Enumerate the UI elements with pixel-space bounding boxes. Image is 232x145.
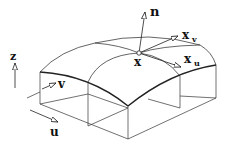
label-xu: x <box>184 52 192 66</box>
u-axis-arrow <box>30 110 58 122</box>
tangent-v-vector <box>139 36 178 53</box>
label-xv-sub: v <box>191 34 197 44</box>
label-n: n <box>150 4 160 19</box>
label-xv: x <box>182 28 190 42</box>
label-v: v <box>57 77 66 91</box>
tangent-u-vector <box>139 53 181 67</box>
surface-curves <box>40 37 216 106</box>
label-x: x <box>134 55 142 69</box>
label-z: z <box>10 50 16 63</box>
label-xu-sub: u <box>194 58 200 68</box>
vectors <box>15 12 181 122</box>
normal-vector <box>139 12 145 53</box>
label-u: u <box>50 125 59 139</box>
surface-diagram: n x x v x u z v u <box>0 0 232 145</box>
v-axis-arrow <box>42 83 56 89</box>
